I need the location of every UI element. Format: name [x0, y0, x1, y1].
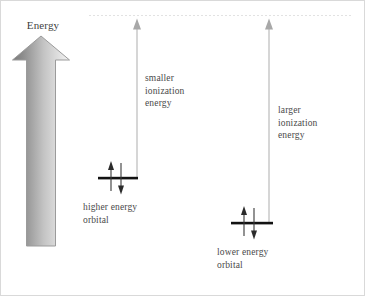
energy-axis-arrow: [13, 36, 70, 246]
orbital-level-bar-lower: [231, 222, 273, 225]
diagram-graphics: [1, 1, 365, 296]
electron-spin-up-higher: [108, 161, 114, 191]
energy-axis-label: Energy: [13, 19, 73, 32]
larger-ionization-energy-label: larger ionization energy: [278, 104, 348, 142]
higher-energy-orbital: [98, 161, 138, 195]
orbital-level-bar-higher: [98, 177, 138, 180]
ionization-energy-diagram: Energy smaller ionization energy larger …: [0, 0, 365, 296]
lower-energy-orbital: [231, 206, 273, 240]
smaller-ionization-energy-arrow: [133, 19, 141, 180]
smaller-ionization-energy-label: smaller ionization energy: [145, 72, 215, 110]
larger-ionization-energy-arrow: [265, 19, 273, 225]
higher-energy-orbital-label: higher energy orbital: [83, 201, 173, 226]
lower-energy-orbital-label: lower energy orbital: [217, 246, 307, 271]
electron-spin-up-lower: [241, 206, 247, 236]
